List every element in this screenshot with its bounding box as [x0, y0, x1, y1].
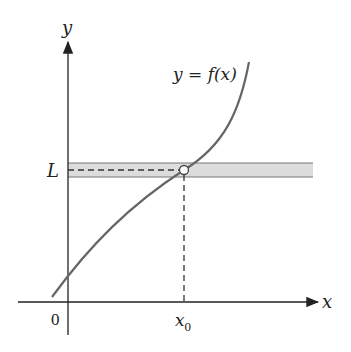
- curve-label: y = f(x): [172, 64, 237, 84]
- limit-diagram: y x 0 y = f(x) L x0: [0, 0, 351, 352]
- function-curve: [52, 62, 249, 297]
- x0-subscript: 0: [185, 319, 192, 334]
- open-point: [180, 166, 189, 175]
- x0-label: x0: [175, 310, 191, 334]
- y-axis-label: y: [61, 17, 73, 38]
- origin-label: 0: [51, 310, 60, 329]
- limit-label: L: [46, 160, 59, 181]
- x-axis-label: x: [322, 291, 332, 312]
- x0-base: x: [175, 310, 185, 330]
